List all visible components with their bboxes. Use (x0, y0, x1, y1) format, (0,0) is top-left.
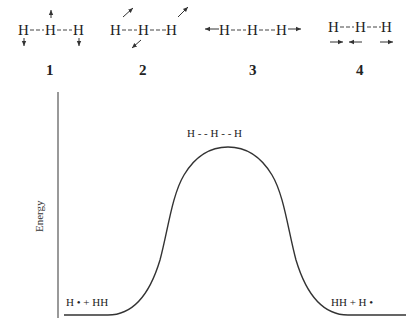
atom-h: H (381, 19, 392, 35)
atom-h: H (18, 22, 29, 38)
structure-label: 2 (139, 62, 147, 78)
atom-h: H (138, 22, 149, 38)
structure-4: H H H 4 (328, 19, 393, 78)
energy-diagram: Energy H - - H - - H H • + HH HH + H • (33, 92, 406, 318)
arrow-diagonal-down-icon (132, 40, 141, 48)
atom-h: H (219, 22, 230, 38)
y-axis-label: Energy (33, 200, 45, 232)
structure-1: H H H 1 (18, 10, 84, 78)
atom-h: H (355, 19, 366, 35)
atom-h: H (166, 22, 177, 38)
atom-h: H (110, 22, 121, 38)
arrow-diagonal-up-icon (123, 8, 133, 17)
atom-h: H (276, 22, 287, 38)
products-label: HH + H • (331, 296, 373, 308)
transition-state-label: H - - H - - H (187, 127, 242, 139)
atom-h: H (45, 22, 56, 38)
reactants-label: H • + HH (66, 296, 108, 308)
reaction-diagram: H H H 1 H H H 2 H H H 3 H H H (0, 0, 411, 320)
structure-2: H H H 2 (110, 7, 188, 78)
arrow-diagonal-up-icon (178, 7, 188, 17)
structure-3: H H H 3 (205, 22, 301, 78)
atom-h: H (328, 19, 339, 35)
atom-h: H (247, 22, 258, 38)
energy-curve (64, 147, 406, 315)
atom-h: H (73, 22, 84, 38)
structure-label: 1 (46, 62, 54, 78)
structure-label: 4 (356, 62, 364, 78)
structure-label: 3 (249, 62, 257, 78)
